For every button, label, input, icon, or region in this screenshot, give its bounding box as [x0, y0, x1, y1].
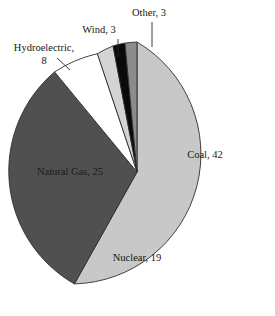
callout-label-hydroelectric-line1: Hydroelectric, — [14, 42, 74, 53]
slice-label-natural-gas: Natural Gas, 25 — [37, 166, 103, 177]
callout-label-hydroelectric-line2: 8 — [41, 55, 46, 66]
slice-label-nuclear: Nuclear, 19 — [113, 252, 162, 263]
slice-label-coal: Coal, 42 — [187, 149, 223, 160]
pie-chart-svg: Coal, 42 Nuclear, 19 Natural Gas, 25 Hyd… — [0, 0, 275, 316]
callout-label-wind: Wind, 3 — [82, 24, 115, 35]
pie-chart-figure: Coal, 42 Nuclear, 19 Natural Gas, 25 Hyd… — [0, 0, 275, 316]
callout-label-other: Other, 3 — [132, 7, 166, 18]
